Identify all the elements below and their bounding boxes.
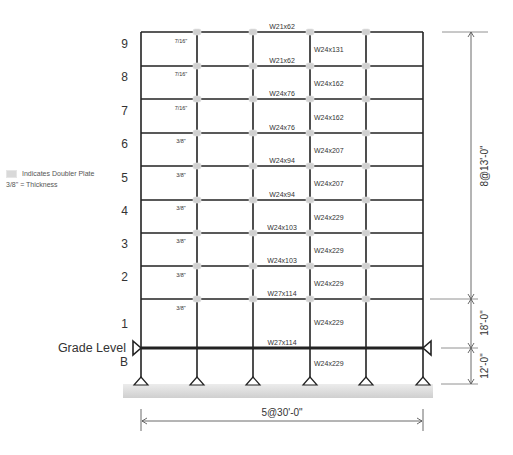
dimension-first-story: 18'-0" <box>479 310 490 336</box>
story-label: 8 <box>121 70 128 84</box>
doubler-plate-icon <box>249 163 257 169</box>
column-size-label: W24x207 <box>314 147 344 154</box>
column-size-label: W24x229 <box>314 280 344 287</box>
doubler-plate-icon <box>193 130 201 136</box>
doubler-thickness-label: 3/8" <box>176 272 186 278</box>
ground-slab <box>123 384 433 398</box>
dimension-basement: 12'-0" <box>479 353 490 379</box>
doubler-plate-icon <box>306 130 314 136</box>
doubler-thickness-label: 3/8" <box>176 172 186 178</box>
doubler-plate-icon <box>362 163 370 169</box>
doubler-plate-icon <box>193 63 201 69</box>
doubler-plate-icon <box>249 130 257 136</box>
column-size-label: W24x207 <box>314 180 344 187</box>
doubler-plate-icon <box>249 296 257 302</box>
doubler-plate-icon <box>249 96 257 102</box>
doubler-thickness-label: 3/8" <box>176 138 186 144</box>
beam-size-label: W24x103 <box>267 257 297 264</box>
doubler-plate-icon <box>306 296 314 302</box>
story-label: 2 <box>121 270 128 284</box>
doubler-plate-icon <box>306 197 314 203</box>
doubler-plate-icon <box>249 263 257 269</box>
doubler-thickness-label: 7/16" <box>175 71 188 77</box>
pin-support-icon <box>416 377 430 385</box>
doubler-plate-icon <box>249 230 257 236</box>
beam-size-label: W24x76 <box>269 90 295 97</box>
doubler-thickness-label: 7/16" <box>175 105 188 111</box>
legend-doubler-label: Indicates Doubler Plate <box>22 170 94 177</box>
doubler-plate-icon <box>193 96 201 102</box>
doubler-plate-icon <box>362 296 370 302</box>
doubler-plate-icon <box>362 63 370 69</box>
legend: Indicates Doubler Plate 3/8" = Thickness <box>6 168 94 190</box>
legend-thickness-label: 3/8" = Thickness <box>6 179 94 190</box>
grade-support-left-icon <box>133 341 141 355</box>
doubler-plate-icon <box>193 29 201 35</box>
doubler-plate-icon <box>362 96 370 102</box>
pin-support-icon <box>359 377 373 385</box>
pin-supports <box>134 377 430 385</box>
dimension-upper-stories: 8@13'-0" <box>479 145 490 187</box>
doubler-plate-icon <box>306 29 314 35</box>
moment-frame-elevation: 987654321BGrade LevelW21x62W21x62W24x76W… <box>0 0 513 455</box>
story-label: 1 <box>121 317 128 331</box>
beam-size-label: W24x76 <box>269 124 295 131</box>
doubler-thickness-label: 3/8" <box>176 238 186 244</box>
story-label: 3 <box>121 237 128 251</box>
dimension-bays-label: 5@30'-0" <box>261 407 303 418</box>
story-label: B <box>120 355 128 369</box>
beam-size-label: W21x62 <box>269 23 295 30</box>
grade-level-label: Grade Level <box>58 341 126 355</box>
beam-size-label: W27x114 <box>267 339 296 346</box>
beam-size-label: W24x94 <box>269 157 295 164</box>
story-label: 7 <box>121 104 128 118</box>
beam-size-label: W24x103 <box>267 224 297 231</box>
doubler-plate-icon <box>193 163 201 169</box>
doubler-plate-icon <box>306 163 314 169</box>
story-label: 4 <box>121 204 128 218</box>
column-size-label: W24x162 <box>314 80 344 87</box>
legend-doubler-row: Indicates Doubler Plate <box>6 168 94 179</box>
doubler-plate-icon <box>306 63 314 69</box>
doubler-plate-icon <box>193 263 201 269</box>
story-label: 6 <box>121 137 128 151</box>
story-label: 5 <box>121 171 128 185</box>
member-labels: 987654321BGrade LevelW21x62W21x62W24x76W… <box>58 23 344 369</box>
column-size-label: W24x229 <box>314 247 344 254</box>
doubler-plate-icon <box>193 296 201 302</box>
doubler-plate-icon <box>362 29 370 35</box>
doubler-plate-icon <box>249 29 257 35</box>
beam-size-label: W21x62 <box>269 57 295 64</box>
doubler-plate-icon <box>362 197 370 203</box>
column-size-label: W24x229 <box>314 360 344 367</box>
doubler-plate-icon <box>249 197 257 203</box>
doubler-plate-icon <box>306 230 314 236</box>
doubler-thickness-label: 3/8" <box>176 205 186 211</box>
column-size-label: W24x162 <box>314 114 344 121</box>
column-size-label: W24x131 <box>314 46 344 53</box>
doubler-plate-icon <box>193 197 201 203</box>
doubler-thickness-label: 3/8" <box>176 305 186 311</box>
pin-support-icon <box>190 377 204 385</box>
pin-support-icon <box>303 377 317 385</box>
beam-size-label: W24x94 <box>269 191 295 198</box>
doubler-plate-icon <box>306 263 314 269</box>
grade-support-right-icon <box>423 341 431 355</box>
doubler-plate-swatch-icon <box>6 170 17 178</box>
column-size-label: W24x229 <box>314 319 344 326</box>
column-size-label: W24x229 <box>314 214 344 221</box>
doubler-plate-icon <box>306 96 314 102</box>
doubler-plate-icon <box>362 230 370 236</box>
beam-size-label: W27x114 <box>267 290 296 297</box>
pin-support-icon <box>246 377 260 385</box>
doubler-plate-icon <box>193 230 201 236</box>
doubler-plate-icon <box>362 263 370 269</box>
doubler-thickness-label: 7/16" <box>175 38 188 44</box>
doubler-plate-icon <box>362 130 370 136</box>
doubler-plate-icon <box>249 63 257 69</box>
story-label: 9 <box>121 37 128 51</box>
pin-support-icon <box>134 377 148 385</box>
